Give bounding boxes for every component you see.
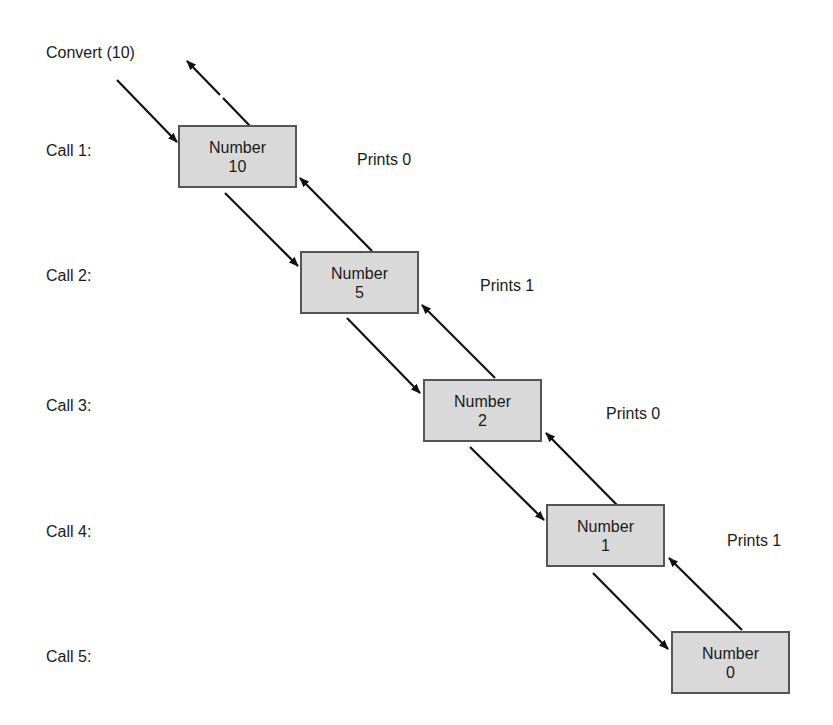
box-value: 0 [726,663,735,682]
prints-label-call-3: Prints 0 [606,405,660,423]
box-label: Number [209,138,266,157]
box-value: 5 [355,283,364,302]
return-arrow-2 [422,305,495,378]
arrows-layer [0,0,833,725]
call-label-4: Call 4: [46,523,91,541]
number-box-call-4: Number 1 [546,504,665,567]
call-label-2: Call 2: [46,267,91,285]
return-arrow-4 [669,558,742,630]
number-box-call-2: Number 5 [300,251,419,314]
call-label-3: Call 3: [46,397,91,415]
box-label: Number [702,644,759,663]
call-arrow-2 [347,318,420,393]
return-arrow-0b [187,61,220,95]
box-label: Number [331,264,388,283]
box-value: 1 [601,536,610,555]
call-label-1: Call 1: [46,142,91,160]
call-arrow-4 [593,573,668,649]
call-arrow-1 [225,193,298,266]
return-arrow-0a [223,98,250,126]
call-label-5: Call 5: [46,648,91,666]
prints-label-call-4: Prints 1 [727,532,781,550]
return-arrow-3 [546,433,617,505]
prints-label-call-1: Prints 0 [357,151,411,169]
box-value: 2 [478,411,487,430]
prints-label-call-2: Prints 1 [480,277,534,295]
number-box-call-5: Number 0 [671,631,790,694]
diagram-title: Convert (10) [46,44,135,62]
box-value: 10 [229,157,247,176]
return-arrow-1 [300,178,372,251]
call-arrow-3 [470,447,544,520]
number-box-call-3: Number 2 [423,379,542,442]
number-box-call-1: Number 10 [178,125,297,188]
call-arrow-0 [117,80,177,142]
box-label: Number [454,392,511,411]
box-label: Number [577,517,634,536]
